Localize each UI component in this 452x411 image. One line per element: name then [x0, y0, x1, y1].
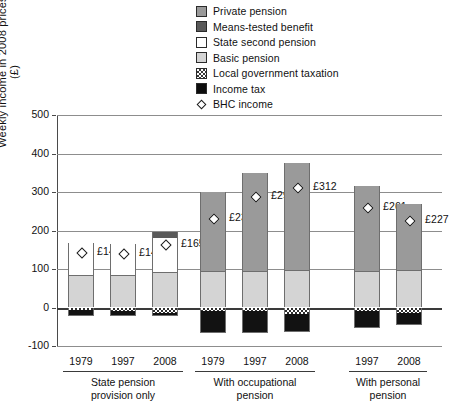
segment-basic-pension [396, 270, 422, 307]
segment-basic-pension [110, 275, 136, 308]
y-tick-mark [52, 308, 56, 309]
legend-item-state-second-pension: State second pension [196, 35, 426, 49]
bar-with-occupational-pension-1997 [242, 115, 268, 346]
bar-with-personal-pension-2008 [396, 115, 422, 346]
y-tick-label: 200 [15, 224, 49, 236]
bar-with-occupational-pension-1979 [200, 115, 226, 346]
group-title-line: With personal [349, 376, 427, 389]
bar-with-occupational-pension-2008 [284, 115, 310, 346]
group-title-line: State pension [63, 376, 183, 389]
x-tick-label-1997: 1997 [103, 355, 143, 367]
chart-container: Private pensionMeans-tested benefitState… [0, 0, 452, 411]
group-rule [195, 371, 315, 372]
basic-pension-swatch [196, 52, 207, 63]
y-tick-label: 500 [15, 108, 49, 120]
legend-label: Private pension [213, 5, 287, 17]
x-tick-label-1979: 1979 [61, 355, 101, 367]
segment-income-tax [354, 311, 380, 328]
group-title-line: pension [349, 389, 427, 402]
bar-state-pension-provision-only-1979 [68, 115, 94, 346]
plot-area: 5004003002001000-100£143£141£165£232£290… [57, 115, 442, 346]
private-pension-swatch [196, 6, 207, 17]
y-tick-mark [52, 346, 56, 347]
legend-label: Means-tested benefit [213, 21, 313, 33]
segment-basic-pension [68, 275, 94, 308]
segment-basic-pension [200, 271, 226, 308]
segment-basic-pension [284, 270, 310, 308]
y-tick-label: 100 [15, 262, 49, 274]
group-title-line: With occupational [195, 376, 315, 389]
legend-label: Local government taxation [213, 67, 339, 79]
state-second-pension-swatch [196, 37, 207, 48]
segment-basic-pension [152, 272, 178, 307]
y-tick-mark [52, 192, 56, 193]
segment-basic-pension [242, 271, 268, 308]
legend-item-income-tax: Income tax [196, 82, 426, 96]
x-tick-label-2008: 2008 [145, 355, 185, 367]
x-tick-label-1997: 1997 [347, 355, 387, 367]
segment-income-tax [152, 313, 178, 316]
legend-item-private-pension: Private pension [196, 4, 426, 18]
legend-label: State second pension [213, 36, 316, 48]
legend-label: Basic pension [213, 52, 280, 64]
y-tick-mark [52, 231, 56, 232]
group-rule [63, 371, 183, 372]
group-title-line: pension [195, 389, 315, 402]
segment-income-tax [68, 310, 94, 316]
bhc-income-marker [196, 99, 207, 110]
segment-income-tax [200, 311, 226, 333]
gridline--100 [57, 346, 442, 347]
segment-private-pension [396, 204, 422, 271]
x-tick-label-2008: 2008 [389, 355, 429, 367]
bhc-income-label: £312 [313, 180, 337, 192]
y-tick-mark [52, 154, 56, 155]
segment-basic-pension [354, 271, 380, 308]
legend-item-local-government-taxation: Local government taxation [196, 66, 426, 80]
y-tick-label: 0 [15, 301, 49, 313]
segment-private-pension [200, 192, 226, 271]
segment-private-pension [242, 173, 268, 271]
means-tested-benefit-swatch [196, 21, 207, 32]
x-tick-label-1979: 1979 [193, 355, 233, 367]
segment-income-tax [396, 313, 422, 325]
segment-private-pension [284, 163, 310, 270]
local-government-taxation-swatch [196, 68, 207, 79]
segment-income-tax [110, 311, 136, 316]
y-axis-label: Weekly income in 2008 prices (£) [0, 0, 20, 152]
y-tick-label: 300 [15, 185, 49, 197]
segment-income-tax [284, 314, 310, 332]
bar-state-pension-provision-only-1997 [110, 115, 136, 346]
bar-with-personal-pension-1997 [354, 115, 380, 346]
group-rule [349, 371, 427, 372]
y-tick-mark [52, 115, 56, 116]
group-title-line: provision only [63, 389, 183, 402]
legend-item-bhc-income-marker: BHC income [196, 97, 426, 111]
segment-private-pension [354, 186, 380, 271]
segment-means-tested-benefit [152, 232, 178, 238]
y-tick-label: -100 [15, 339, 49, 351]
legend-item-means-tested-benefit: Means-tested benefit [196, 20, 426, 34]
chart-legend: Private pensionMeans-tested benefitState… [196, 4, 426, 113]
y-tick-label: 400 [15, 147, 49, 159]
x-tick-label-2008: 2008 [277, 355, 317, 367]
legend-label: Income tax [213, 83, 265, 95]
segment-income-tax [242, 311, 268, 333]
x-tick-label-1997: 1997 [235, 355, 275, 367]
bar-state-pension-provision-only-2008 [152, 115, 178, 346]
legend-item-basic-pension: Basic pension [196, 51, 426, 65]
legend-label: BHC income [213, 98, 273, 110]
y-tick-mark [52, 269, 56, 270]
income-tax-swatch [196, 83, 207, 94]
bhc-income-label: £227 [425, 213, 449, 225]
